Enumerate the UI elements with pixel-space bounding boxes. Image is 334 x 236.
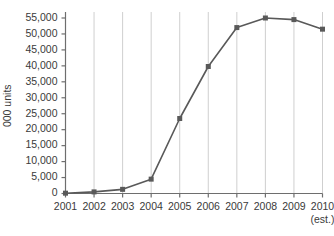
y-tick-label: 45,000: [25, 43, 57, 55]
x-tick-label: 2003: [111, 200, 135, 212]
x-tick-label: 2005: [168, 200, 192, 212]
x-tick-label: 2007: [225, 200, 249, 212]
data-point-marker: [263, 16, 268, 21]
data-point-marker: [234, 25, 239, 30]
y-tick-label: 25,000: [25, 107, 57, 119]
x-tick-label: 2010: [311, 200, 334, 212]
x-tick-label: 2004: [139, 200, 163, 212]
y-axis-title-text: 000 units: [1, 84, 13, 127]
x-tick-label: 2009: [282, 200, 306, 212]
x-tick-label: 2006: [197, 200, 221, 212]
chart-container: 05,00010,00015,00020,00025,00030,00035,0…: [0, 0, 334, 236]
y-tick-label: 5,000: [31, 170, 57, 182]
line-chart: 05,00010,00015,00020,00025,00030,00035,0…: [0, 0, 334, 236]
data-point-marker: [120, 187, 125, 192]
y-tick-label: 30,000: [25, 91, 57, 103]
x-tick-label: 2008: [254, 200, 278, 212]
x-tick-sublabel: (est.): [311, 213, 334, 225]
data-point-marker: [92, 189, 97, 194]
data-point-marker: [320, 27, 325, 32]
x-tick-label: 2002: [82, 200, 106, 212]
data-point-marker: [149, 177, 154, 182]
data-point-marker: [63, 191, 68, 196]
y-tick-label: 40,000: [25, 59, 57, 71]
y-tick-label: 15,000: [25, 138, 57, 150]
x-tick-label: 2001: [54, 200, 78, 212]
data-point-marker: [177, 116, 182, 121]
y-tick-label: 0: [52, 186, 58, 198]
y-axis-title: 000 units: [1, 84, 13, 127]
y-tick-label: 35,000: [25, 75, 57, 87]
data-point-marker: [206, 64, 211, 69]
y-tick-label: 50,000: [25, 27, 57, 39]
data-point-marker: [291, 17, 296, 22]
y-tick-label: 55,000: [25, 11, 57, 23]
y-tick-label: 10,000: [25, 154, 57, 166]
y-tick-label: 20,000: [25, 122, 57, 134]
